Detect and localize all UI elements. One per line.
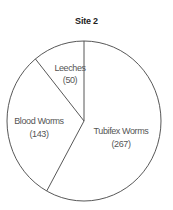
pie-chart: Tubifex Worms (267) Blood Worms (143) Le… [0, 0, 173, 210]
slice-value-tubifex-worms: (267) [111, 139, 130, 149]
slice-divider-1 [47, 121, 84, 191]
slice-label-tubifex-worms: Tubifex Worms [94, 126, 150, 136]
slice-label-blood-worms: Blood Worms [14, 116, 64, 126]
slice-value-blood-worms: (143) [29, 129, 48, 139]
pie-labels: Tubifex Worms (267) Blood Worms (143) Le… [14, 63, 149, 149]
slice-value-leeches: (50) [63, 75, 78, 85]
slice-label-leeches: Leeches [54, 63, 86, 73]
